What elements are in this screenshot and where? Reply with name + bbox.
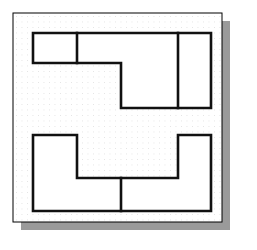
dot-grid-figure-canvas bbox=[0, 0, 257, 250]
figure-root bbox=[0, 0, 257, 250]
